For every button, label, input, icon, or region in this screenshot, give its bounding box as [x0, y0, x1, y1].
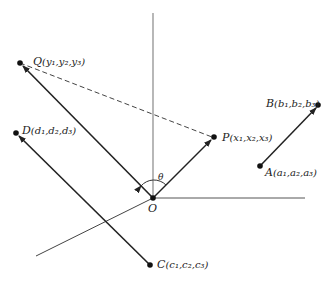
label-b: B(b₁,b₂,b₃): [265, 97, 320, 110]
oblique-axis: [36, 198, 153, 256]
label-d: D(d₁,d₂,d₃): [21, 124, 76, 137]
point-c: [147, 262, 153, 268]
vector-diagram: θ O Q(y₁,y₂,y₃) P(x₁,x₂,x₃) D(d₁,d₂,d₃) …: [0, 0, 335, 283]
svg-text:C(c₁,c₂,c₃): C(c₁,c₂,c₃): [157, 258, 209, 271]
svg-text:D(d₁,d₂,d₃): D(d₁,d₂,d₃): [21, 124, 76, 137]
point-p: [211, 134, 217, 140]
svg-text:B(b₁,b₂,b₃): B(b₁,b₂,b₃): [265, 97, 320, 110]
label-p: P(x₁,x₂,x₃): [221, 131, 273, 144]
point-q: [17, 60, 23, 66]
svg-text:Q(y₁,y₂,y₃): Q(y₁,y₂,y₃): [33, 55, 85, 68]
theta-label: θ: [158, 172, 164, 182]
point-a: [257, 163, 263, 169]
svg-text:P(x₁,x₂,x₃): P(x₁,x₂,x₃): [221, 131, 273, 144]
label-a: A(a₁,a₂,a₃): [264, 166, 317, 179]
vector-c-d: [19, 136, 150, 265]
label-c: C(c₁,c₂,c₃): [157, 258, 209, 271]
point-o: [150, 195, 156, 201]
point-d: [13, 130, 19, 136]
label-q: Q(y₁,y₂,y₃): [33, 55, 85, 68]
label-o: O: [148, 202, 157, 215]
svg-text:A(a₁,a₂,a₃): A(a₁,a₂,a₃): [264, 166, 317, 179]
vector-o-p: [153, 140, 211, 198]
